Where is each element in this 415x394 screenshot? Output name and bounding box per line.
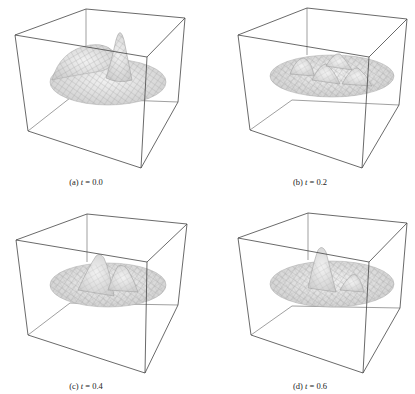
- caption-label: (a): [69, 177, 81, 187]
- caption-c: (c) t = 0.4: [69, 381, 103, 391]
- surface: [270, 247, 394, 307]
- panel-c-plot: [16, 214, 187, 373]
- caption-a: (a) t = 0.0: [69, 177, 103, 187]
- caption-label: (c): [69, 381, 81, 391]
- surface: [270, 54, 394, 97]
- caption-label: (b): [293, 177, 305, 187]
- surface: [50, 254, 166, 307]
- caption-value: = 0.4: [83, 381, 103, 391]
- panel-a-plot: [15, 9, 185, 168]
- caption-b: (b) t = 0.2: [293, 177, 327, 187]
- caption-value: = 0.2: [307, 177, 327, 187]
- caption-value: = 0.6: [307, 381, 327, 391]
- caption-label: (d): [293, 381, 305, 391]
- caption-value: = 0.0: [83, 177, 103, 187]
- caption-d: (d) t = 0.6: [293, 381, 327, 391]
- panel-d-plot: [238, 213, 407, 373]
- panel-b-plot: [238, 8, 407, 168]
- figure-canvas: [0, 0, 415, 394]
